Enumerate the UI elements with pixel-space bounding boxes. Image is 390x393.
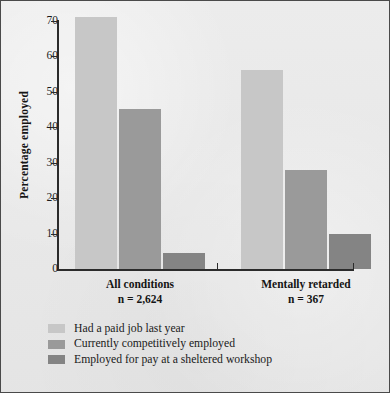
- bar: [241, 70, 283, 269]
- legend-label: Currently competitively employed: [74, 338, 235, 350]
- legend-label: Employed for pay at a sheltered workshop: [74, 354, 272, 366]
- legend-label: Had a paid job last year: [74, 323, 185, 335]
- x-axis-boundary-tick-2: [353, 263, 354, 270]
- chart-legend: Had a paid job last yearCurrently compet…: [48, 321, 368, 368]
- x-axis-category-label: Mentally retardedn = 367: [231, 277, 381, 306]
- bar-chart-plot-area: 706050403020100 Percentage employed All …: [1, 1, 390, 393]
- x-axis-boundary-tick-1: [217, 263, 218, 270]
- bar: [329, 234, 371, 270]
- bar: [285, 170, 327, 269]
- legend-swatch-icon: [48, 340, 65, 349]
- figure-frame: 706050403020100 Percentage employed All …: [0, 0, 390, 393]
- category-sample-size: n = 2,624: [65, 292, 215, 307]
- legend-swatch-icon: [48, 324, 65, 333]
- bar: [119, 109, 161, 269]
- legend-item: Currently competitively employed: [48, 337, 368, 353]
- legend-item: Had a paid job last year: [48, 321, 368, 337]
- bar: [163, 253, 205, 269]
- legend-item: Employed for pay at a sheltered workshop: [48, 352, 368, 368]
- x-axis-category-label: All conditionsn = 2,624: [65, 277, 215, 306]
- category-sample-size: n = 367: [231, 292, 381, 307]
- bar: [75, 17, 117, 269]
- x-axis-line: [57, 269, 354, 271]
- legend-swatch-icon: [48, 355, 65, 364]
- bar-series-layer: [1, 1, 390, 269]
- x-axis-boundary-tick-0: [58, 263, 59, 270]
- category-name: Mentally retarded: [231, 277, 381, 292]
- category-name: All conditions: [65, 277, 215, 292]
